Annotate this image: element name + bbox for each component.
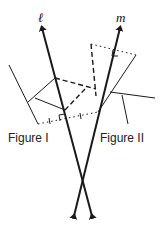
line-m-label: m <box>116 10 125 25</box>
line-l-label: ℓ <box>38 10 44 25</box>
figure-1-shape <box>9 65 65 124</box>
right-angle-marks <box>49 50 118 124</box>
diagram-svg: ℓ m Figure I Figure II <box>0 0 164 225</box>
figure-2-shape <box>98 55 155 124</box>
figure-1-label: Figure I <box>8 131 49 145</box>
diagram-canvas: ℓ m Figure I Figure II <box>0 0 164 225</box>
construction-lines <box>38 44 136 124</box>
figure-2-label: Figure II <box>100 131 144 145</box>
